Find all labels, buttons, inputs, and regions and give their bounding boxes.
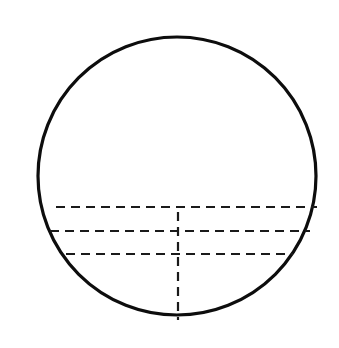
diagram-canvas [0,0,339,348]
circle-diagram-svg [0,0,339,348]
diagram-background [0,0,339,348]
